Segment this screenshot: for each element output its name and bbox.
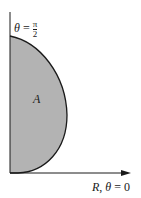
- horizontal-axis-label: R, θ = 0: [92, 180, 130, 195]
- equals-sign: =: [114, 180, 121, 194]
- vertical-axis-label: θ = π 2: [14, 20, 37, 39]
- comma: ,: [99, 180, 102, 194]
- fraction: π 2: [33, 20, 38, 39]
- equals-sign: =: [23, 21, 30, 35]
- theta-symbol: θ: [14, 21, 20, 35]
- theta-symbol: θ: [105, 180, 111, 194]
- zero-value: 0: [124, 180, 130, 194]
- arrow-head-icon: [121, 170, 131, 176]
- region-label: A: [33, 92, 40, 107]
- fraction-denominator: 2: [33, 30, 38, 39]
